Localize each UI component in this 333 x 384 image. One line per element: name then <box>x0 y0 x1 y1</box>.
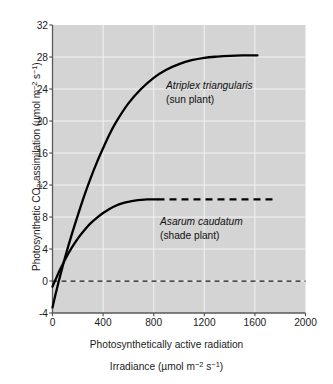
plot-area <box>0 0 333 384</box>
series-label-sun-scientific: Atriplex triangularis <box>166 79 253 93</box>
series-label-asarum-caudatum: Asarum caudatum (shade plant) <box>160 215 243 242</box>
x-axis-sup-2: −1 <box>211 360 219 369</box>
series-label-atriplex-triangularis: Atriplex triangularis (sun plant) <box>166 79 253 106</box>
x-axis-title-line1: Photosynthetically active radiation <box>0 339 333 350</box>
series-label-shade-scientific: Asarum caudatum <box>160 215 243 229</box>
chart-figure: Photosynthetic CO2 assimilation (µmol m−… <box>0 0 333 384</box>
plot-background <box>53 25 306 313</box>
series-label-sun-common: (sun plant) <box>166 93 253 107</box>
series-label-shade-common: (shade plant) <box>160 229 243 243</box>
x-axis-title-line2: Irradiance (µmol m−2 s−1) <box>0 360 333 372</box>
